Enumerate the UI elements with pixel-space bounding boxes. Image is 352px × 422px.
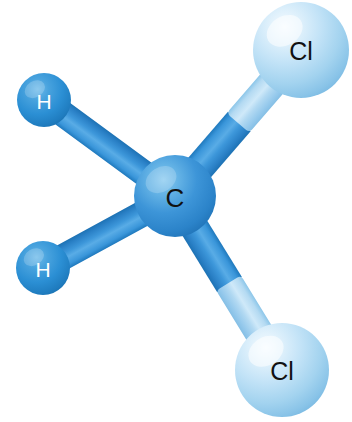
atom-hydrogen-upper-left: H <box>17 73 71 127</box>
molecule-canvas: CClClHH <box>0 0 352 422</box>
atom-label-h1: H <box>36 90 51 113</box>
atom-label-cl2: Cl <box>270 357 294 385</box>
atom-label-c1: C <box>166 183 185 213</box>
atom-label-h2: H <box>35 258 50 281</box>
atom-chlorine-bottom-right: Cl <box>235 323 329 417</box>
atom-layer: CClClHH <box>16 2 349 417</box>
atom-hydrogen-lower-left: H <box>16 241 70 295</box>
atom-label-cl1: Cl <box>289 37 313 65</box>
atom-carbon-center: C <box>134 155 216 237</box>
molecule-diagram: CClClHH <box>0 0 352 422</box>
atom-chlorine-top-right: Cl <box>253 2 349 98</box>
